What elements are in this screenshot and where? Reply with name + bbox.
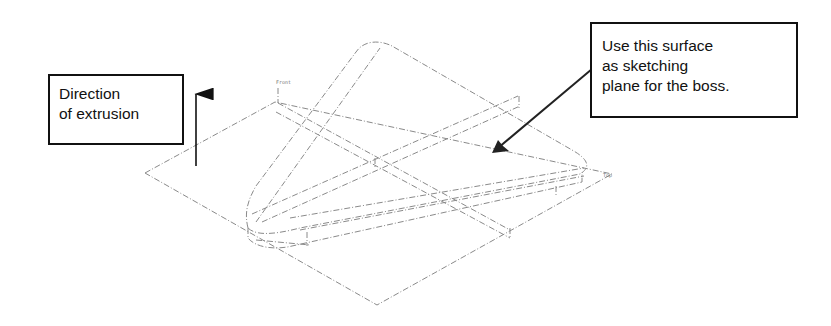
callout-line: plane for the boss. <box>602 76 787 96</box>
top-plane-label: Top <box>603 172 612 179</box>
direction-of-extrusion-callout: Direction of extrusion <box>48 74 184 145</box>
surface-leader-arrow <box>498 69 592 148</box>
front-plane-label: Front <box>276 79 291 85</box>
callout-line: as sketching <box>602 56 787 76</box>
sketch-plane <box>145 102 612 305</box>
callout-line: Use this surface <box>602 36 787 56</box>
callout-line: Direction <box>59 84 173 104</box>
callout-line: of extrusion <box>59 104 173 124</box>
sketch-surface-callout: Use this surface as sketching plane for … <box>590 22 798 118</box>
